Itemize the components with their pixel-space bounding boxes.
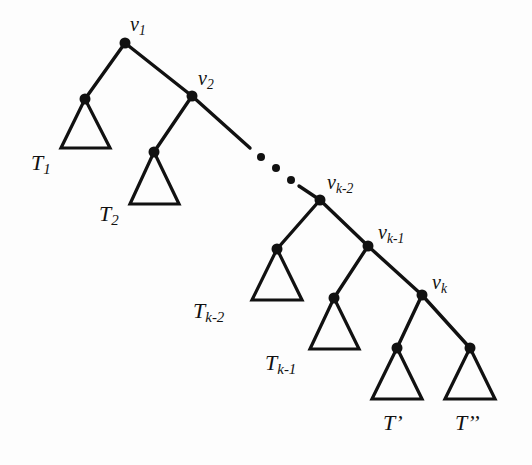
edge-v2-t2 <box>154 96 192 152</box>
vertex-tk2-apex <box>272 244 283 255</box>
subtree-label-Tk2-base: T <box>193 298 205 323</box>
subtree-label-Tprime: T’ <box>383 412 403 434</box>
subtree-label-Tprime-base: T <box>383 410 395 435</box>
edge-vk2-tk2 <box>277 200 320 249</box>
subtree-label-Tk2-sub: k-2 <box>205 309 224 325</box>
subtree-T2 <box>130 152 179 204</box>
node-label-v1: v1 <box>130 14 146 37</box>
node-label-vk2-sub: k-2 <box>336 181 353 196</box>
tree-diagram-figure: v1 v2 vk-2 vk-1 vk T1 T2 Tk-2 Tk-1 T’ T’… <box>0 0 532 465</box>
node-label-vk1-sub: k-1 <box>387 231 404 246</box>
subtree-label-Tdprime-mark: ’’ <box>467 410 479 435</box>
vertex-t1-apex <box>80 94 91 105</box>
vertex-v1 <box>120 38 131 49</box>
edge-v2-ellipsis <box>192 96 250 148</box>
vertex-t2-apex <box>149 147 160 158</box>
tree-graphic <box>0 0 532 465</box>
edge-vk1-tk1 <box>334 246 368 298</box>
node-label-v2: v2 <box>198 68 214 91</box>
vertex-vk <box>417 290 428 301</box>
subtree-label-T1-sub: 1 <box>43 161 50 177</box>
edges-group <box>85 43 470 348</box>
edge-vk1-vk <box>368 246 422 295</box>
node-label-vk2: vk-2 <box>327 172 353 195</box>
subtree-label-Tk2: Tk-2 <box>193 300 224 325</box>
node-label-vk2-base: v <box>327 171 336 193</box>
vertex-tdprime-apex <box>465 343 476 354</box>
node-label-vk1-base: v <box>378 221 387 243</box>
subtree-label-Tk1-sub: k-1 <box>277 361 296 377</box>
node-label-v2-base: v <box>198 67 207 89</box>
subtree-label-T2-sub: 2 <box>111 212 118 228</box>
node-label-vk-base: v <box>432 271 441 293</box>
node-label-vk-sub: k <box>441 281 447 296</box>
edge-v1-v2 <box>125 43 192 96</box>
subtree-label-T2: T2 <box>99 203 119 228</box>
ellipsis-dot-1 <box>257 153 265 161</box>
vertex-vk1 <box>363 241 374 252</box>
node-label-v2-sub: 2 <box>207 77 214 92</box>
subtree-Tprime <box>372 348 422 399</box>
vertex-vk2 <box>315 195 326 206</box>
subtree-Tdprime <box>445 348 495 399</box>
ellipsis-dot-2 <box>272 164 280 172</box>
node-label-vk1: vk-1 <box>378 222 404 245</box>
subtree-label-Tk1: Tk-1 <box>265 352 296 377</box>
subtree-Tk1 <box>310 298 359 349</box>
vertex-v2 <box>187 91 198 102</box>
subtree-label-T1-base: T <box>31 150 43 175</box>
subtree-label-Tdprime: T’’ <box>455 412 479 434</box>
ellipsis-dots-group <box>257 153 295 184</box>
node-label-vk: vk <box>432 272 447 295</box>
edge-vk-tprime <box>397 295 422 348</box>
subtree-label-T2-base: T <box>99 201 111 226</box>
subtree-label-Tprime-mark: ’ <box>395 410 402 435</box>
edge-vk2-vk1 <box>320 200 368 246</box>
edge-vk-tdprime <box>422 295 470 348</box>
subtree-T1 <box>61 99 110 148</box>
vertex-tprime-apex <box>392 343 403 354</box>
node-label-v1-base: v <box>130 13 139 35</box>
subtree-Tk2 <box>252 249 302 300</box>
subtree-label-Tk1-base: T <box>265 350 277 375</box>
subtree-label-Tdprime-base: T <box>455 410 467 435</box>
ellipsis-dot-3 <box>287 176 295 184</box>
vertex-tk1-apex <box>329 293 340 304</box>
edge-v1-t1 <box>85 43 125 99</box>
node-label-v1-sub: 1 <box>139 23 146 38</box>
subtree-label-T1: T1 <box>31 152 51 177</box>
